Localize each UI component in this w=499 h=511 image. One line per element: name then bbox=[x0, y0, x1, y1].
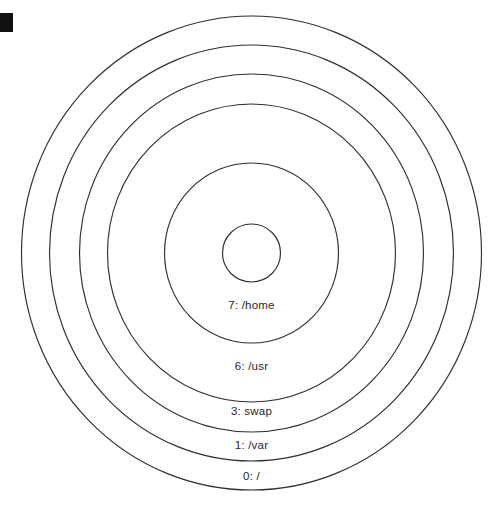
ring-3[interactable] bbox=[108, 104, 396, 402]
ring-label-4: 7: /home bbox=[228, 300, 274, 312]
ring-2[interactable] bbox=[80, 74, 424, 432]
ring-label-3: 6: /usr bbox=[235, 361, 268, 373]
concentric-rings-graphic bbox=[0, 0, 499, 511]
ring-label-1: 1: /var bbox=[235, 440, 268, 452]
ring-label-2: 3: swap bbox=[231, 406, 272, 418]
ring-0[interactable] bbox=[22, 16, 482, 490]
ring-4[interactable] bbox=[165, 163, 339, 343]
ring-label-0: 0: / bbox=[243, 471, 260, 483]
ring-group bbox=[22, 16, 482, 490]
ring-5[interactable] bbox=[223, 224, 281, 282]
ring-1[interactable] bbox=[50, 45, 454, 461]
diagram-canvas: 0: /1: /var3: swap6: /usr7: /home bbox=[0, 0, 499, 511]
